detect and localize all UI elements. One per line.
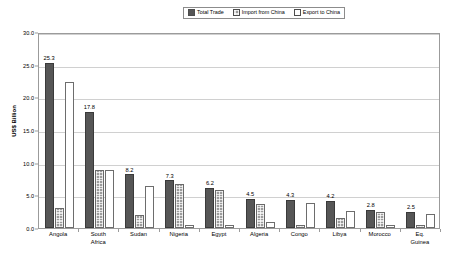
- bar-total: 25.3: [45, 63, 54, 228]
- bar-chart: Total Trade Import from China Export to …: [0, 0, 451, 263]
- bar-group: 6.2: [200, 34, 240, 228]
- y-tick-label: 25.0: [23, 63, 34, 69]
- x-axis-labels: AngolaSouthAfricaSudanNigeriaEgyptAlgeri…: [38, 231, 440, 261]
- bar-value-label: 2.5: [407, 204, 415, 210]
- x-tick-label-line: Congo: [279, 231, 319, 239]
- y-axis-ticks: 0.05.010.015.020.025.030.0: [0, 33, 38, 229]
- bar-group: 2.8: [361, 34, 401, 228]
- bar-total: 6.2: [205, 188, 214, 229]
- x-tick-label-line: Angola: [38, 231, 78, 239]
- bar-value-label: 25.3: [44, 55, 55, 61]
- plot-area: 25.317.88.27.36.24.54.34.22.82.5: [38, 33, 440, 229]
- x-tick-mark: [440, 229, 441, 232]
- x-tick-label-line: Morocco: [360, 231, 400, 239]
- x-tick-label-line: Nigeria: [159, 231, 199, 239]
- x-tick-label-line: Africa: [78, 239, 118, 247]
- x-tick-label: Libya: [319, 231, 359, 239]
- bar-import: [416, 225, 425, 228]
- x-tick-label: SouthAfrica: [78, 231, 118, 246]
- bar-import: [95, 170, 104, 228]
- bar-group: 4.5: [240, 34, 280, 228]
- bar-value-label: 2.8: [367, 202, 375, 208]
- export-to-china-swatch: [294, 9, 301, 16]
- bar-group: 25.3: [39, 34, 79, 228]
- bar-total: 17.8: [85, 112, 94, 228]
- bar-value-label: 6.2: [206, 180, 214, 186]
- y-tick-label: 10.0: [23, 161, 34, 167]
- legend-label-export-to-china: Export to China: [303, 9, 340, 16]
- x-tick-label: Eq.Guinea: [400, 231, 440, 246]
- bar-export: [346, 211, 355, 228]
- legend-item-import-from-china: Import from China: [233, 9, 285, 16]
- x-tick-label-line: Guinea: [400, 239, 440, 247]
- bar-import: [55, 208, 64, 228]
- bar-export: [145, 186, 154, 228]
- bar-value-label: 4.5: [246, 191, 254, 197]
- bar-export: [266, 222, 275, 228]
- x-tick-label: Egypt: [199, 231, 239, 239]
- x-tick-label: Sudan: [118, 231, 158, 239]
- bar-total: 7.3: [165, 180, 174, 228]
- legend-item-export-to-china: Export to China: [294, 9, 340, 16]
- bar-value-label: 17.8: [84, 104, 95, 110]
- bar-total: 2.8: [366, 210, 375, 228]
- bar-import: [256, 204, 265, 228]
- bar-group: 17.8: [79, 34, 119, 228]
- bar-total: 4.5: [246, 199, 255, 228]
- bar-import: [215, 190, 224, 228]
- bar-export: [185, 225, 194, 228]
- import-from-china-swatch: [233, 9, 240, 16]
- y-tick-label: 0.0: [26, 226, 34, 232]
- x-tick-label-line: Egypt: [199, 231, 239, 239]
- bar-group: 4.3: [280, 34, 320, 228]
- total-trade-swatch: [188, 9, 195, 16]
- bar-import: [175, 184, 184, 228]
- bar-value-label: 7.3: [166, 173, 174, 179]
- legend-label-total-trade: Total Trade: [197, 9, 224, 16]
- y-tick-label: 15.0: [23, 128, 34, 134]
- x-tick-label-line: Algeria: [239, 231, 279, 239]
- bar-export: [225, 225, 234, 228]
- legend-label-import-from-china: Import from China: [242, 9, 285, 16]
- bar-export: [105, 170, 114, 228]
- bar-total: 2.5: [406, 212, 415, 228]
- bar-group: 7.3: [160, 34, 200, 228]
- bar-import: [336, 218, 345, 228]
- x-tick-label-line: Eq.: [400, 231, 440, 239]
- x-tick-label: Algeria: [239, 231, 279, 239]
- legend-item-total-trade: Total Trade: [188, 9, 224, 16]
- y-tick-label: 5.0: [26, 193, 34, 199]
- bar-group: 8.2: [119, 34, 159, 228]
- bar-total: 4.2: [326, 201, 335, 228]
- x-tick-label: Morocco: [360, 231, 400, 239]
- bar-group: 2.5: [401, 34, 441, 228]
- bar-total: 4.3: [286, 200, 295, 228]
- bar-group: 4.2: [320, 34, 360, 228]
- bar-export: [386, 225, 395, 228]
- bar-import: [376, 212, 385, 228]
- y-tick-label: 30.0: [23, 30, 34, 36]
- bar-series-container: 25.317.88.27.36.24.54.34.22.82.5: [39, 34, 439, 228]
- y-tick-label: 20.0: [23, 95, 34, 101]
- chart-legend: Total Trade Import from China Export to …: [183, 7, 345, 19]
- x-tick-label: Angola: [38, 231, 78, 239]
- bar-export: [306, 203, 315, 228]
- bar-value-label: 4.3: [286, 192, 294, 198]
- bar-total: 8.2: [125, 174, 134, 228]
- bar-value-label: 4.2: [327, 193, 335, 199]
- x-tick-label-line: South: [78, 231, 118, 239]
- bar-export: [65, 82, 74, 228]
- x-tick-label: Congo: [279, 231, 319, 239]
- bar-import: [135, 215, 144, 228]
- bar-value-label: 8.2: [126, 167, 134, 173]
- bar-export: [426, 214, 435, 228]
- x-tick-label-line: Sudan: [118, 231, 158, 239]
- x-tick-label: Nigeria: [159, 231, 199, 239]
- bar-import: [296, 225, 305, 228]
- x-tick-label-line: Libya: [319, 231, 359, 239]
